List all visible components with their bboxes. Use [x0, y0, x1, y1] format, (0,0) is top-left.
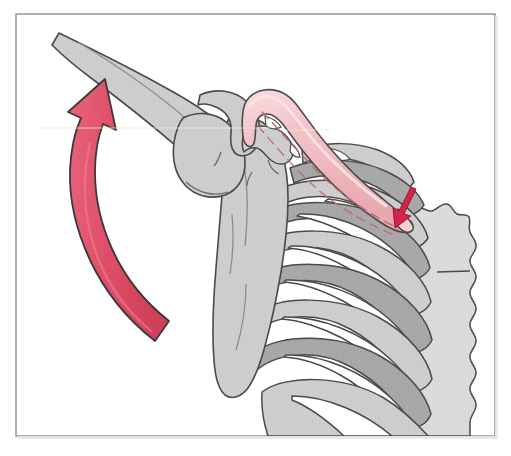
frame-shadow-right [495, 16, 498, 438]
anatomy-illustration [0, 0, 511, 456]
frame-shadow-bottom [18, 436, 498, 439]
illustration-canvas: Shoulder girdle motion diagram Anterior … [0, 0, 511, 456]
